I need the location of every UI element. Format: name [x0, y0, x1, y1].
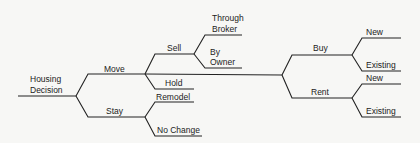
edge-move [76, 74, 145, 96]
label-buy-existing: Existing [366, 60, 396, 70]
label-buy: Buy [313, 43, 328, 53]
label-owner: Owner [210, 57, 235, 67]
label-stay: Stay [106, 106, 124, 116]
label-move: Move [104, 64, 125, 74]
label-buy-new: New [366, 27, 384, 37]
edge-buy-new [352, 38, 401, 55]
label-rent: Rent [311, 87, 330, 97]
label-rent-new: New [366, 73, 384, 83]
edge-sell [145, 54, 194, 74]
decision-tree-diagram: Housing Decision Move Stay Sell Hold Thr… [0, 0, 420, 143]
label-sell: Sell [167, 43, 181, 53]
label-remodel: Remodel [156, 92, 190, 102]
label-housing: Housing [30, 74, 61, 84]
edge-remodel [145, 102, 194, 117]
label-no-change: No Change [157, 125, 200, 135]
label-hold: Hold [165, 78, 183, 88]
label-decision: Decision [30, 85, 63, 95]
edge-move-continue [145, 74, 282, 75]
label-by: By [210, 47, 221, 57]
edge-rent-new [352, 84, 401, 98]
label-rent-existing: Existing [366, 106, 396, 116]
label-broker: Broker [212, 24, 237, 34]
label-through: Through [212, 13, 244, 23]
edge-buy [282, 55, 352, 75]
